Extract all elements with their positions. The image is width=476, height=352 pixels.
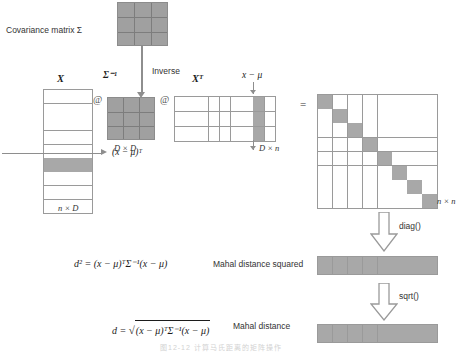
matrix-cell <box>76 104 92 117</box>
matrix-cell <box>265 127 276 141</box>
matrix-cell <box>231 112 242 126</box>
matrix-cell-filled <box>318 257 332 274</box>
sigma-inverse-label: Σ⁻¹ <box>103 69 117 80</box>
diag-label: diag() <box>399 221 421 231</box>
matrix-cell-filled <box>348 123 362 137</box>
matrix-cell <box>333 180 347 194</box>
matrix-cell <box>60 145 76 158</box>
X-matrix-label: X <box>57 73 64 84</box>
matrix-cell <box>348 109 362 123</box>
matrix-cell <box>209 127 220 141</box>
matrix-cell-filled <box>60 158 76 171</box>
matrix-cell <box>363 180 377 194</box>
matrix-cell <box>318 123 332 137</box>
matrix-cell <box>44 90 60 103</box>
covariance-matrix-label: Covariance matrix Σ <box>6 25 82 35</box>
matrix-cell <box>392 152 406 166</box>
matrix-cell <box>392 180 406 194</box>
matrix-cell <box>378 138 392 152</box>
matrix-cell <box>422 123 436 137</box>
matrix-cell <box>186 97 197 111</box>
matrix-cell <box>60 172 76 185</box>
matrix-cell <box>209 112 220 126</box>
inverse-label: Inverse <box>152 66 180 76</box>
matmul-symbol-2: @ <box>160 94 169 105</box>
matrix-cell <box>175 97 186 111</box>
matrix-cell <box>422 138 436 152</box>
matrix-cell-filled <box>318 325 332 342</box>
matrix-cell <box>265 97 276 111</box>
matrix-cell-filled <box>378 325 392 342</box>
matrix-cell <box>348 194 362 208</box>
matrix-cell <box>44 145 60 158</box>
matrix-cell <box>242 127 253 141</box>
matrix-cell <box>333 95 347 109</box>
matrix-cell <box>363 166 377 180</box>
matrix-cell-filled <box>363 138 377 152</box>
matrix-cell <box>318 152 332 166</box>
matrix-cell <box>197 112 208 126</box>
Dxn-arrow-head <box>250 146 256 150</box>
matrix-cell <box>44 186 60 199</box>
matrix-cell <box>44 104 60 117</box>
matrix-cell <box>378 180 392 194</box>
matrix-cell <box>348 95 362 109</box>
XT-matrix-dims: D × n <box>259 143 279 153</box>
matrix-cell <box>44 131 60 144</box>
matrix-cell <box>333 123 347 137</box>
matrix-cell <box>76 131 92 144</box>
matrix-cell <box>407 95 421 109</box>
inverse-arrow-shaft <box>141 46 143 94</box>
matrix-cell <box>175 127 186 141</box>
matrix-cell <box>348 166 362 180</box>
matrix-cell <box>76 90 92 103</box>
matrix-cell-filled <box>253 97 264 111</box>
matrix-cell <box>407 194 421 208</box>
d-formula: d = √(x − μ)ᵀΣ⁻¹(x − μ) <box>112 320 210 338</box>
matrix-cell <box>60 131 76 144</box>
result-nxn-matrix <box>317 94 438 209</box>
matrix-cell-filled <box>407 325 421 342</box>
matrix-cell <box>186 112 197 126</box>
matrix-cell <box>333 138 347 152</box>
matrix-cell-filled <box>76 158 92 171</box>
matrix-cell <box>407 166 421 180</box>
matrix-cell <box>407 109 421 123</box>
matrix-cell <box>220 112 231 126</box>
matrix-cell <box>348 180 362 194</box>
matrix-cell <box>378 109 392 123</box>
matrix-cell <box>231 127 242 141</box>
matrix-cell-filled <box>378 152 392 166</box>
matrix-cell <box>76 117 92 130</box>
sample-row-arrow-shaft <box>2 153 102 154</box>
matrix-cell-filled <box>44 158 60 171</box>
matrix-cell <box>392 109 406 123</box>
d-formula-prefix: d = <box>112 325 129 336</box>
matrix-cell <box>392 95 406 109</box>
matrix-cell <box>422 152 436 166</box>
matmul-symbol-1: @ <box>93 94 102 105</box>
figure-caption: 图12-12 计算马氏距离的矩阵操作 <box>160 342 282 352</box>
matrix-cell-filled <box>392 257 406 274</box>
matrix-cell <box>231 97 242 111</box>
matrix-cell <box>318 109 332 123</box>
diag-vector <box>317 256 438 275</box>
matrix-cell <box>197 127 208 141</box>
matrix-cell <box>392 123 406 137</box>
matrix-cell <box>220 127 231 141</box>
matrix-cell <box>422 95 436 109</box>
matrix-cell <box>363 95 377 109</box>
matrix-cell <box>318 138 332 152</box>
matrix-cell-filled <box>392 166 406 180</box>
matrix-cell-filled <box>348 257 362 274</box>
matrix-cell <box>197 97 208 111</box>
mahal-squared-caption: Mahal distance squared <box>213 259 303 269</box>
d-formula-radicand-wrap: (x − μ)ᵀΣ⁻¹(x − μ) <box>135 320 211 338</box>
matrix-cell-filled <box>378 257 392 274</box>
matrix-cell <box>407 138 421 152</box>
matrix-cell <box>242 112 253 126</box>
d-squared-formula: d² = (x − μ)ᵀΣ⁻¹(x − μ) <box>74 258 167 269</box>
matrix-cell <box>318 194 332 208</box>
matrix-cell <box>186 127 197 141</box>
matrix-cell <box>60 186 76 199</box>
